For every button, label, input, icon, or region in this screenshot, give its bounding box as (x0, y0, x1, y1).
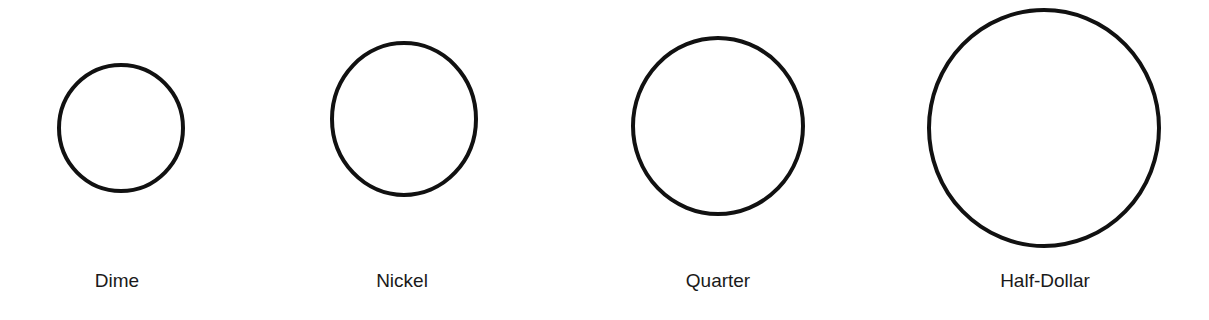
quarter-label: Quarter (686, 270, 750, 292)
half-dollar-circle (929, 10, 1159, 246)
dime-circle (59, 65, 183, 191)
nickel-circle (332, 43, 476, 195)
dime-label: Dime (95, 270, 139, 292)
nickel-label: Nickel (376, 270, 428, 292)
half-dollar-label: Half-Dollar (1000, 270, 1090, 292)
quarter-circle (633, 38, 803, 214)
